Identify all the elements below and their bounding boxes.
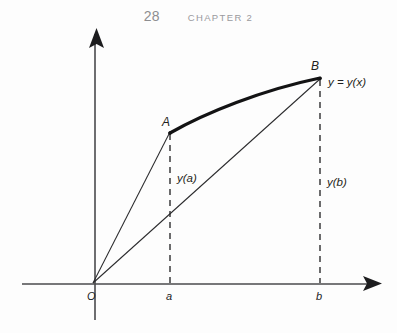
ordinate-label-ya: y(a) [176,172,197,184]
origin-label: O [87,290,96,302]
point-marker-a [168,131,172,135]
curve-y-of-x [170,78,320,133]
point-label-a: A [161,115,170,129]
point-marker-b [318,77,322,81]
y-axis-arrow-icon [89,28,104,48]
ordinate-label-yb: y(b) [326,176,347,188]
line-origin-to-b [93,79,320,283]
figure-page: 28 CHAPTER 2 A B y = y(x) y(a) y(b) O a … [0,0,397,333]
figure-canvas: A B y = y(x) y(a) y(b) O a b [0,0,397,333]
x-tick-label-a: a [166,290,172,302]
x-tick-label-b: b [316,290,322,302]
point-label-b: B [311,59,319,73]
line-origin-to-a [93,132,170,283]
curve-label: y = y(x) [327,76,366,88]
